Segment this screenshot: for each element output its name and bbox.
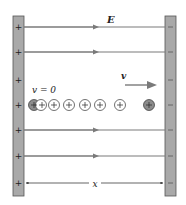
initial-velocity-label: v = 0 — [32, 85, 56, 95]
svg-text:+: + — [15, 75, 23, 85]
svg-text:+: + — [15, 151, 23, 161]
field-label: E — [106, 14, 115, 25]
velocity-label: v — [121, 71, 127, 81]
svg-text:+: + — [15, 47, 23, 57]
velocity-arrow — [125, 81, 157, 89]
distance-label: x — [92, 179, 97, 189]
diagram-canvas: + + + + + + + E v = — [0, 0, 186, 205]
negative-plate — [165, 16, 176, 196]
particle-trail — [29, 100, 155, 111]
svg-text:+: + — [15, 125, 23, 135]
positive-plate: + + + + + + + — [13, 16, 24, 196]
svg-text:+: + — [15, 100, 23, 110]
svg-text:+: + — [15, 178, 23, 188]
svg-text:+: + — [15, 22, 23, 32]
